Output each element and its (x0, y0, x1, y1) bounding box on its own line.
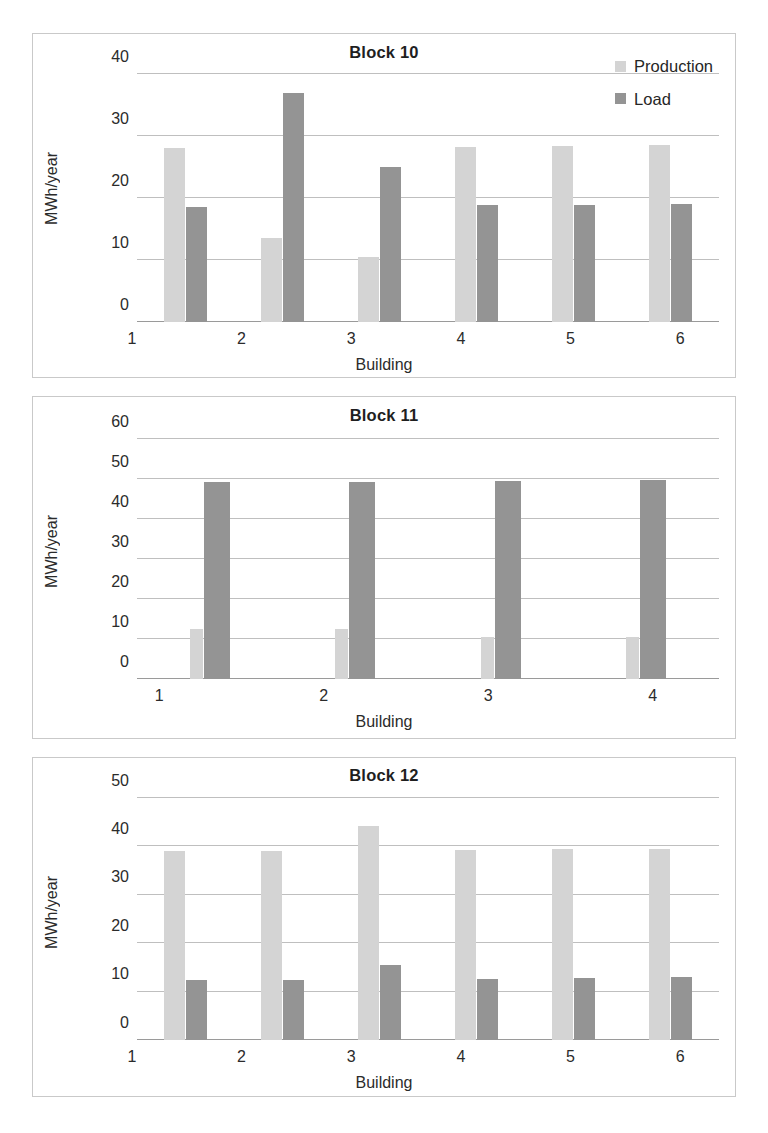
bar-series-container (137, 439, 719, 679)
x-axis-label: Building (33, 356, 735, 374)
chart-panel-block-12: Block 12 MWh/year 01020304050 123456 Bui… (32, 757, 736, 1097)
x-axis-tick-label: 1 (77, 1048, 187, 1066)
x-axis-tick-label: 3 (296, 330, 406, 348)
x-axis-label: Building (33, 1074, 735, 1092)
bar-production (164, 851, 185, 1040)
y-axis-tick-label: 40 (111, 493, 129, 511)
x-axis-tick-label: 5 (516, 330, 626, 348)
plot-grid: 010203040 (137, 74, 719, 322)
x-axis-tick-label: 6 (625, 330, 735, 348)
y-axis-tick-label: 10 (111, 234, 129, 252)
x-axis-tick-label: 4 (406, 330, 516, 348)
chart-panel-block-10: Block 10 Production Load MWh/year 010203… (32, 33, 736, 378)
bar-group (234, 798, 331, 1040)
x-axis-tick-label: 1 (77, 687, 242, 705)
bar-production (649, 849, 670, 1040)
x-axis-tick-label: 6 (625, 1048, 735, 1066)
x-axis-tick-labels: 123456 (77, 330, 735, 348)
bar-group (525, 798, 622, 1040)
y-axis-tick-label: 40 (111, 48, 129, 66)
bar-production (626, 637, 639, 679)
figure-page: Block 10 Production Load MWh/year 010203… (0, 0, 768, 1133)
y-axis-tick-label: 20 (111, 172, 129, 190)
bar-load (671, 977, 692, 1040)
chart-title: Block 12 (33, 766, 735, 785)
bar-group (137, 74, 234, 322)
y-axis-tick-label: 0 (120, 1014, 129, 1032)
bar-load (349, 482, 375, 679)
x-axis-tick-label: 2 (242, 687, 407, 705)
y-axis-tick-label: 10 (111, 965, 129, 983)
plot-grid: 01020304050 (137, 798, 719, 1040)
bar-group (428, 798, 525, 1040)
bar-load (574, 205, 595, 322)
plot-area: 0102030405060 (93, 439, 719, 679)
plot-grid: 0102030405060 (137, 439, 719, 679)
bar-production (261, 851, 282, 1040)
bar-group (574, 439, 720, 679)
legend-swatch-production-icon (615, 61, 626, 72)
bar-load (380, 965, 401, 1040)
y-axis-tick-label: 20 (111, 917, 129, 935)
bar-load (186, 207, 207, 322)
y-axis-tick-label: 30 (111, 110, 129, 128)
bar-production (552, 146, 573, 322)
x-axis-tick-label: 2 (187, 330, 297, 348)
bar-production (358, 257, 379, 322)
bar-group (622, 798, 719, 1040)
bar-group (234, 74, 331, 322)
bar-production (190, 629, 203, 679)
bar-group (137, 439, 283, 679)
bar-group (525, 74, 622, 322)
bar-group (428, 74, 525, 322)
x-axis-tick-label: 2 (187, 1048, 297, 1066)
bar-load (380, 167, 401, 322)
bar-production (358, 826, 379, 1040)
y-axis-tick-label: 30 (111, 533, 129, 551)
bar-load (495, 481, 521, 679)
bar-series-container (137, 798, 719, 1040)
y-axis-tick-label: 10 (111, 613, 129, 631)
bar-load (204, 482, 230, 679)
plot-area: 010203040 (93, 74, 719, 322)
bar-production (455, 850, 476, 1040)
x-axis-label: Building (33, 713, 735, 731)
bar-production (455, 147, 476, 322)
bar-production (335, 629, 348, 679)
bar-load (477, 205, 498, 322)
y-axis-tick-label: 50 (111, 453, 129, 471)
bar-production (164, 148, 185, 322)
bar-production (261, 238, 282, 322)
chart-title: Block 11 (33, 406, 735, 425)
x-axis-tick-label: 4 (571, 687, 736, 705)
bar-production (481, 637, 494, 679)
bar-group (283, 439, 429, 679)
plot-area: 01020304050 (93, 798, 719, 1040)
bar-group (331, 798, 428, 1040)
chart-panel-block-11: Block 11 MWh/year 0102030405060 1234 Bui… (32, 396, 736, 739)
y-axis-tick-label: 40 (111, 820, 129, 838)
x-axis-tick-labels: 1234 (77, 687, 735, 705)
x-axis-tick-label: 3 (296, 1048, 406, 1066)
y-axis-tick-label: 50 (111, 772, 129, 790)
bar-group (622, 74, 719, 322)
x-axis-tick-label: 1 (77, 330, 187, 348)
bar-load (574, 978, 595, 1040)
bar-group (137, 798, 234, 1040)
y-axis-tick-label: 30 (111, 868, 129, 886)
y-axis-tick-label: 0 (120, 653, 129, 671)
x-axis-tick-labels: 123456 (77, 1048, 735, 1066)
y-axis-tick-label: 0 (120, 296, 129, 314)
bar-load (283, 93, 304, 322)
y-axis-label: MWh/year (43, 876, 61, 949)
y-axis-label: MWh/year (43, 152, 61, 225)
x-axis-tick-label: 5 (516, 1048, 626, 1066)
y-axis-label: MWh/year (43, 515, 61, 588)
x-axis-tick-label: 4 (406, 1048, 516, 1066)
bar-group (331, 74, 428, 322)
bar-group (428, 439, 574, 679)
y-axis-tick-label: 60 (111, 413, 129, 431)
bar-series-container (137, 74, 719, 322)
y-axis-tick-label: 20 (111, 573, 129, 591)
bar-load (283, 980, 304, 1040)
